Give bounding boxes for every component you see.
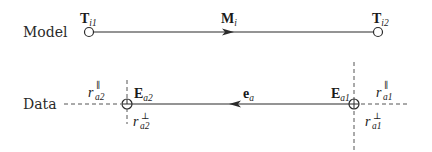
model-data-diagram: Model Ti1 Mi Ti2 Data Ea2 bbox=[0, 0, 432, 152]
label-e-a2: Ea2 bbox=[134, 86, 153, 103]
point-t-i1 bbox=[85, 28, 94, 37]
svg-text:∥: ∥ bbox=[384, 80, 388, 90]
model-segment bbox=[93, 29, 374, 36]
svg-text:a2: a2 bbox=[95, 92, 105, 102]
svg-text:⊥: ⊥ bbox=[141, 111, 149, 121]
svg-text:a1: a1 bbox=[372, 121, 382, 131]
model-row-label: Model bbox=[23, 24, 68, 40]
svg-text:r: r bbox=[133, 114, 139, 129]
label-e-a: ea bbox=[243, 86, 254, 103]
svg-text:a1: a1 bbox=[383, 92, 393, 102]
label-r-perp-a2: r ⊥ a2 bbox=[133, 111, 150, 131]
label-t-i2: Ti2 bbox=[372, 11, 389, 28]
svg-text:r: r bbox=[376, 85, 382, 100]
label-t-i1: Ti1 bbox=[80, 11, 97, 28]
label-r-parallel-a1: r ∥ a1 bbox=[376, 80, 393, 102]
label-e-a1: Ea1 bbox=[331, 86, 350, 103]
point-e-a1 bbox=[349, 99, 359, 109]
svg-text:∥: ∥ bbox=[96, 80, 100, 90]
point-t-i2 bbox=[374, 28, 383, 37]
svg-text:r: r bbox=[365, 114, 371, 129]
svg-text:r: r bbox=[88, 85, 94, 100]
data-row-label: Data bbox=[23, 96, 57, 112]
diagram-canvas: Model Ti1 Mi Ti2 Data Ea2 bbox=[0, 0, 432, 152]
point-e-a2 bbox=[122, 99, 132, 109]
svg-text:a2: a2 bbox=[140, 121, 150, 131]
label-m-i: Mi bbox=[221, 11, 237, 28]
label-r-perp-a1: r ⊥ a1 bbox=[365, 111, 382, 131]
label-r-parallel-a2: r ∥ a2 bbox=[88, 80, 105, 102]
svg-text:⊥: ⊥ bbox=[373, 111, 381, 121]
data-segment bbox=[131, 101, 350, 108]
